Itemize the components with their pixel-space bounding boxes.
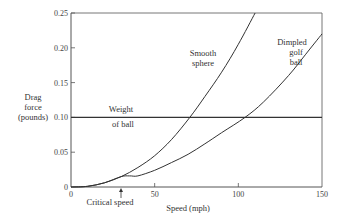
- y-tick-label: 0.15: [54, 79, 68, 88]
- dimpled-ball-label-line3: ball: [290, 57, 303, 67]
- y-tick-label: 0.20: [54, 44, 68, 53]
- drag-force-chart: 00.050.100.150.200.25 050100150 Drag for…: [0, 0, 340, 219]
- x-tick-label: 150: [316, 190, 328, 199]
- smooth-sphere-curve: [71, 13, 255, 187]
- x-axis-label: Speed (mph): [166, 203, 210, 213]
- y-tick-label: 0.10: [54, 113, 68, 122]
- smooth-sphere-label-line2: sphere: [192, 58, 214, 68]
- y-axis-label-line1: Drag: [25, 92, 43, 102]
- y-axis-label-line2: force: [24, 102, 42, 112]
- x-tick-label: 0: [69, 190, 73, 199]
- smooth-sphere-label-line1: Smooth: [190, 48, 217, 58]
- y-tick-label: 0.25: [54, 9, 68, 18]
- dimpled-ball-label-line1: Dimpled: [277, 37, 307, 47]
- y-tick-label: 0: [64, 183, 68, 192]
- weight-label-line2: of ball: [112, 119, 135, 129]
- y-tick-label: 0.05: [54, 148, 68, 157]
- critical-speed-label: Critical speed: [87, 197, 135, 207]
- y-axis-ticks: 00.050.100.150.200.25: [54, 9, 75, 192]
- dimpled-ball-label-line2: golf: [289, 47, 303, 57]
- weight-label-line1: Weight: [109, 104, 134, 114]
- y-axis-label-line3: (pounds): [18, 112, 48, 122]
- x-tick-label: 50: [151, 190, 159, 199]
- x-tick-label: 100: [232, 190, 244, 199]
